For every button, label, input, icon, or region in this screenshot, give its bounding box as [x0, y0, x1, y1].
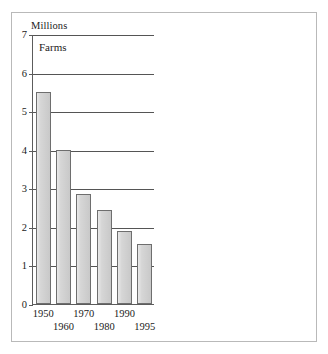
x-axis-label: 1960: [53, 321, 74, 332]
bar: [36, 92, 51, 304]
x-axis-label: 1970: [73, 308, 94, 319]
bar: [76, 194, 91, 304]
bar: [117, 231, 132, 304]
y-tick-label-3: 3: [22, 184, 27, 195]
bar-series-farms: [33, 35, 154, 304]
unit-label-millions: Millions: [31, 20, 67, 31]
bar: [56, 150, 71, 304]
plot-area-farms: Farms 01234567 195019601970198019901995: [32, 35, 154, 305]
chart-panel-farms: Millions Farms 01234567 1950196019701980…: [0, 0, 160, 354]
x-axis-label: 1995: [134, 321, 155, 332]
y-tick-label-4: 4: [22, 146, 27, 157]
y-tick-label-7: 7: [22, 30, 27, 41]
y-tick-label-6: 6: [22, 69, 27, 80]
chart-panel-average-farm-size: Acres Average Farm Size 0100200300400500…: [160, 0, 328, 354]
x-axis-label: 1950: [33, 308, 54, 319]
figure-root: Millions Farms 01234567 1950196019701980…: [0, 0, 328, 354]
y-tick-label-5: 5: [22, 107, 27, 118]
y-tick-label-0: 0: [22, 300, 27, 311]
x-axis-label: 1990: [114, 308, 135, 319]
x-axis-labels-farms: 195019601970198019901995: [33, 304, 154, 338]
x-axis-label: 1980: [94, 321, 115, 332]
y-tick-label-2: 2: [22, 223, 27, 234]
bar: [97, 210, 112, 305]
bar: [137, 244, 152, 304]
y-tick-label-1: 1: [22, 261, 27, 272]
